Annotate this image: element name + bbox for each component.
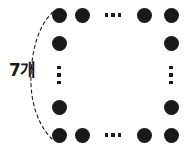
dot-ring-diagram: 7개 (0, 0, 193, 156)
ellipsis-dot (169, 81, 172, 84)
vertical-ellipsis-left (57, 66, 61, 84)
dot-node (137, 8, 152, 23)
ellipsis-dot (57, 73, 60, 76)
ellipsis-dot (111, 13, 114, 16)
ellipsis-dot (105, 13, 108, 16)
dot-node (52, 36, 67, 51)
dot-node (75, 8, 90, 23)
ellipsis-dot (118, 13, 121, 16)
dot-node (52, 8, 67, 23)
ellipsis-dot (111, 133, 114, 136)
ellipsis-dot (169, 73, 172, 76)
ellipsis-dot (169, 66, 172, 69)
dot-node (137, 128, 152, 143)
dot-node (52, 128, 67, 143)
count-annotation-label: 7개 (9, 62, 36, 79)
ellipsis-dot (118, 133, 121, 136)
dot-node (164, 36, 179, 51)
dot-node (75, 128, 90, 143)
ellipsis-dot (57, 81, 60, 84)
horizontal-ellipsis-bottom (105, 133, 121, 137)
ellipsis-dot (105, 133, 108, 136)
dot-node (52, 100, 67, 115)
vertical-ellipsis-right (169, 66, 173, 84)
dot-node (164, 100, 179, 115)
horizontal-ellipsis-top (105, 13, 121, 17)
dot-node (164, 8, 179, 23)
dot-node (164, 128, 179, 143)
ellipsis-dot (57, 66, 60, 69)
